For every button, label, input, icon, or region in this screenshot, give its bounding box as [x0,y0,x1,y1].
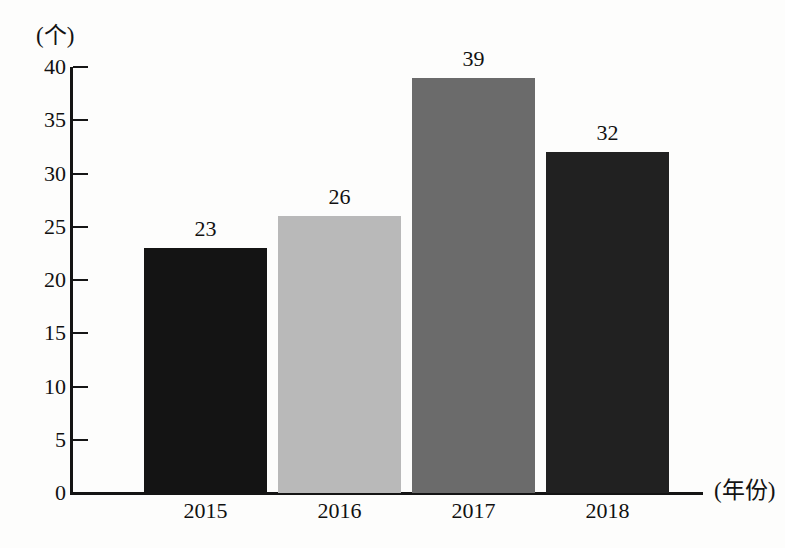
y-tick-label: 20 [26,269,66,291]
y-axis-unit-label: (个) [36,24,74,47]
bar-value-label-2018: 32 [578,122,638,144]
bar-2016 [278,216,401,493]
bar-2018 [546,152,669,493]
y-tick-label: 15 [26,322,66,344]
y-tick-label: 0 [26,482,66,504]
x-axis-unit-label: (年份) [714,479,775,502]
bar-chart: (个) (年份) 0510152025303540 23263932 20152… [0,0,785,548]
bar-value-label-2017: 39 [444,48,504,70]
x-tick-label-2017: 2017 [429,500,519,522]
bar-2015 [144,248,267,493]
bar-value-label-2016: 26 [310,186,370,208]
y-tick-label: 35 [26,109,66,131]
x-tick-label-2015: 2015 [161,500,251,522]
y-tick-label: 30 [26,163,66,185]
y-tick-label: 5 [26,429,66,451]
x-tick-label-2016: 2016 [295,500,385,522]
y-tick-label: 10 [26,376,66,398]
bar-2017 [412,78,535,493]
x-tick-label-2018: 2018 [563,500,653,522]
y-tick-label: 25 [26,216,66,238]
bar-value-label-2015: 23 [176,218,236,240]
y-tick-label: 40 [26,56,66,78]
